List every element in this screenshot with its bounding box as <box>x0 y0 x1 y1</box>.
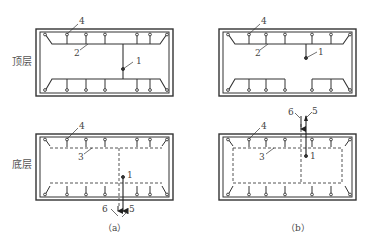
leader-3 <box>266 148 274 154</box>
leader-1 <box>306 52 317 58</box>
dashed-bar-3 <box>233 124 342 183</box>
row-label-bottom: 底层 <box>12 158 32 170</box>
callout-6: 6 <box>102 204 108 214</box>
callout-4: 4 <box>261 16 267 26</box>
inner-wall <box>223 32 352 93</box>
dashed-bar-3 <box>50 148 162 208</box>
caption-b: （b） <box>286 223 310 233</box>
panel-b-top <box>219 24 356 96</box>
callout-2: 2 <box>74 48 80 58</box>
callout-3: 3 <box>259 152 265 162</box>
callout-4: 4 <box>79 121 85 131</box>
callout-1: 1 <box>310 151 316 161</box>
panel-b-bottom <box>219 112 356 200</box>
leader-2 <box>80 44 88 50</box>
point-1 <box>122 176 125 179</box>
leader-1 <box>123 62 133 69</box>
callout-5: 5 <box>312 106 318 116</box>
callout-1: 1 <box>318 47 324 57</box>
callout-1: 1 <box>136 56 142 66</box>
ties-bottom <box>249 79 331 89</box>
ties-top <box>249 34 331 44</box>
leader-3 <box>84 148 92 154</box>
leader-6 <box>295 113 300 118</box>
ties-top <box>249 139 331 147</box>
callout-6: 6 <box>288 107 294 117</box>
leader-5 <box>122 211 128 217</box>
leader-6 <box>111 209 118 216</box>
callout-2: 2 <box>255 48 261 58</box>
callout-1: 1 <box>127 170 133 180</box>
outer-wall <box>219 29 356 96</box>
rebar-layout-diagram: 1 4 2 顶层 1 4 <box>0 0 366 241</box>
ties-bottom <box>249 186 331 194</box>
caption-a: （a） <box>103 223 126 233</box>
anchor-dots <box>227 33 352 91</box>
panel-a-top <box>36 24 173 96</box>
callout-4: 4 <box>261 121 267 131</box>
inner-wall <box>223 137 352 197</box>
ties-bottom <box>67 79 150 89</box>
outer-wall <box>219 134 356 200</box>
bottom-bar-left <box>228 79 285 91</box>
callout-3: 3 <box>78 152 84 162</box>
arrow-5-head <box>304 115 308 121</box>
leader-2 <box>260 44 268 50</box>
point-1 <box>305 155 308 158</box>
callout-4: 4 <box>79 16 85 26</box>
row-label-top: 顶层 <box>12 56 32 67</box>
callout-5: 5 <box>129 204 135 214</box>
anchor-dots <box>227 138 352 196</box>
